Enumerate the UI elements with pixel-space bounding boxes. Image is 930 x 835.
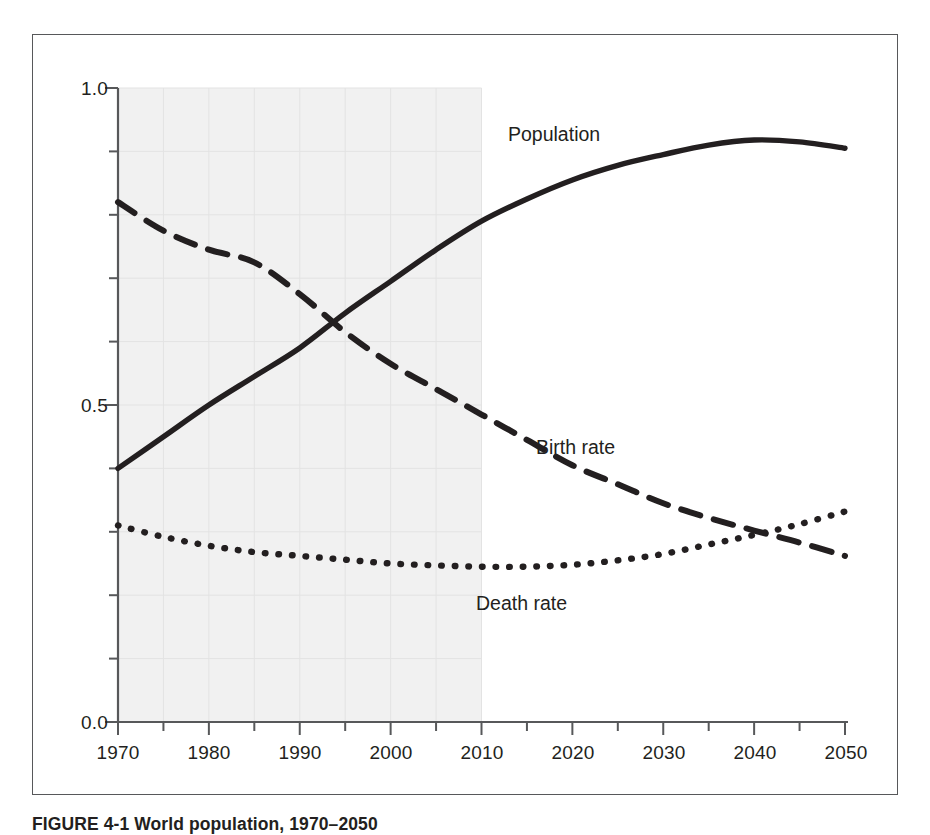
series-label-birth-rate: Birth rate [536,436,615,459]
series-label-death-rate: Death rate [476,592,567,615]
y-tick-label-2: 0.5 [48,395,108,417]
figure-caption: FIGURE 4-1 World population, 1970–2050 [32,814,378,835]
x-tick-label-1990: 1990 [265,742,335,764]
x-tick-label-1970: 1970 [83,742,153,764]
x-tick-label-2030: 2030 [629,742,699,764]
series-label-population: Population [508,123,600,146]
y-tick-label-1: 1.0 [48,78,108,100]
x-axis-ticks [118,722,845,735]
x-tick-label-2040: 2040 [720,742,790,764]
x-tick-label-2020: 2020 [538,742,608,764]
x-tick-label-2000: 2000 [356,742,426,764]
y-tick-label-3: 0.0 [48,712,108,734]
x-tick-label-1980: 1980 [174,742,244,764]
x-tick-label-2050: 2050 [811,742,881,764]
x-tick-label-2010: 2010 [447,742,517,764]
